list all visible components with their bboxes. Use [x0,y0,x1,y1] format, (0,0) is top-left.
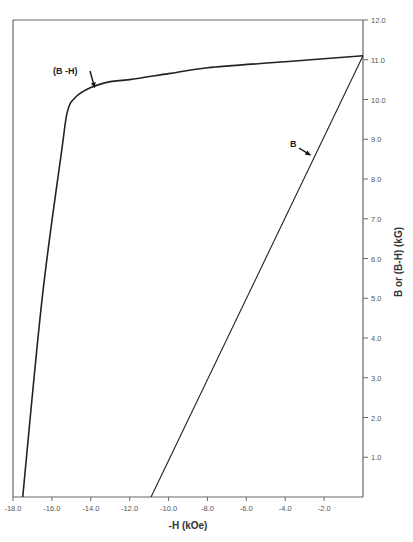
x-tick-label: -10.0 [160,504,177,513]
y-tick-label: 8.0 [371,175,381,184]
b-label: B [290,139,297,149]
annotations: (B -H)B [53,66,311,155]
x-tick-label: -14.0 [82,504,99,513]
x-tick-label: -18.0 [4,504,21,513]
y-tick-label: 3.0 [371,374,381,383]
y-tick-label: 4.0 [371,334,381,343]
series-layer [23,56,363,497]
y-tick-label: 9.0 [371,135,381,144]
y-tick-label: 2.0 [371,414,381,423]
x-tick-label: -12.0 [121,504,138,513]
x-tick-label: -4.0 [279,504,292,513]
x-tick-label: -8.0 [201,504,214,513]
x-tick-label: -6.0 [240,504,253,513]
y-axis-title: B or (B-H) (kG) [393,227,404,297]
x-tick-label: -2.0 [318,504,331,513]
y-tick-label: 1.0 [371,453,381,462]
demagnetization-chart: -18.0-16.0-14.0-12.0-10.0-8.0-6.0-4.0-2.… [0,0,413,542]
y-tick-label: 10.0 [371,96,386,105]
y-tick-label: 6.0 [371,255,381,264]
b-line [151,56,363,497]
b-minus-h-curve [23,56,363,497]
x-axis-title: -H (kOe) [169,520,208,531]
b-minus-h-label: (B -H) [53,66,78,76]
y-tick-label: 12.0 [371,16,386,25]
y-tick-label: 11.0 [371,56,385,65]
x-axis-ticks: -18.0-16.0-14.0-12.0-10.0-8.0-6.0-4.0-2.… [4,497,330,513]
y-axis-ticks: 1.02.03.04.05.06.07.08.09.010.011.012.0 [363,16,386,462]
x-tick-label: -16.0 [43,504,60,513]
plot-frame [13,20,363,497]
y-tick-label: 7.0 [371,215,381,224]
y-tick-label: 5.0 [371,294,381,303]
